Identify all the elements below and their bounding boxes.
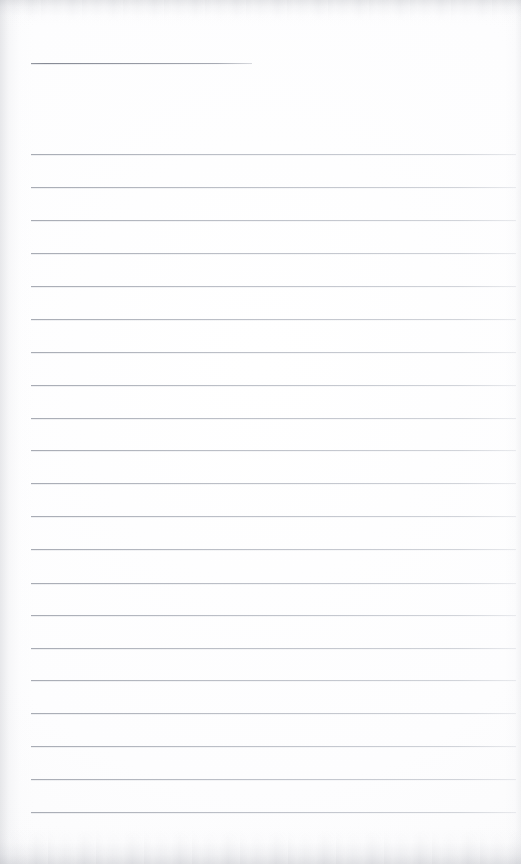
ruled-line — [31, 680, 516, 681]
ruled-line — [31, 779, 516, 780]
ruled-line — [31, 583, 516, 584]
ruled-line — [31, 187, 516, 188]
ruled-line — [31, 812, 516, 813]
ruled-line — [31, 220, 516, 221]
ruled-line — [31, 418, 516, 419]
ruled-line — [31, 713, 516, 714]
ruled-line — [31, 746, 516, 747]
ruled-line — [31, 615, 516, 616]
ruled-lines-layer — [0, 0, 521, 864]
ruled-line — [31, 154, 516, 155]
scanned-page — [0, 0, 521, 864]
ruled-line — [31, 253, 516, 254]
ruled-line — [31, 286, 516, 287]
ruled-line — [31, 352, 516, 353]
ruled-line — [31, 549, 516, 550]
ruled-line — [31, 483, 516, 484]
ruled-line — [31, 385, 516, 386]
ruled-line — [31, 516, 516, 517]
ruled-line — [31, 648, 516, 649]
ruled-line — [31, 450, 516, 451]
ruled-line — [31, 319, 516, 320]
